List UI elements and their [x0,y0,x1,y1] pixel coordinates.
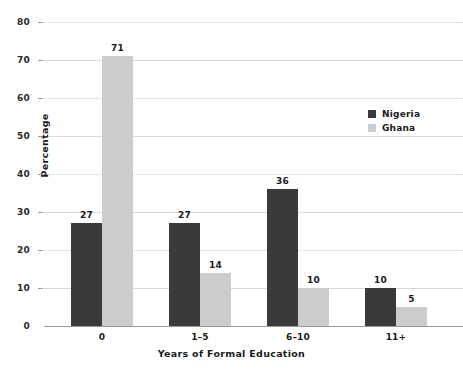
legend-item-nigeria: Nigeria [368,107,420,121]
bar-value-label: 27 [163,210,206,220]
y-axis-tick-mark [38,212,43,213]
bar-ghana-0 [102,56,133,326]
bar-ghana-1–5 [200,273,231,326]
x-axis-tick-label: 1–5 [149,332,251,342]
x-axis-tick-label: 11+ [345,332,447,342]
y-axis-tick-label: 30 [0,207,30,217]
bar-value-label: 5 [390,294,433,304]
y-axis-tick-label: 70 [0,55,30,65]
y-axis-tick-label: 50 [0,131,30,141]
y-axis-title: Percentage [39,96,50,196]
y-axis-tick-label: 20 [0,245,30,255]
y-axis-tick-label: 60 [0,93,30,103]
y-axis-tick-mark [38,98,43,99]
bar-chart: Percentage Years of Formal Education Nig… [0,0,463,377]
bar-value-label: 27 [65,210,108,220]
y-axis-tick-mark [38,288,43,289]
bar-value-label: 14 [194,260,237,270]
y-axis-tick-label: 10 [0,283,30,293]
bar-value-label: 71 [96,43,139,53]
y-axis-tick-label: 80 [0,17,30,27]
bar-value-label: 10 [292,275,335,285]
legend-label: Ghana [382,123,415,133]
bar-nigeria-1–5 [169,223,200,326]
y-axis-tick-mark [38,136,43,137]
chart-legend: NigeriaGhana [368,107,420,135]
y-axis-tick-label: 40 [0,169,30,179]
y-axis-tick-mark [38,250,43,251]
bar-value-label: 36 [261,176,304,186]
bar-ghana-6–10 [298,288,329,326]
bar-ghana-11+ [396,307,427,326]
x-axis-line [44,326,463,327]
y-axis-tick-mark [38,22,43,23]
legend-label: Nigeria [382,109,420,119]
x-axis-tick-label: 0 [51,332,153,342]
y-axis-tick-label: 0 [0,321,30,331]
bar-nigeria-0 [71,223,102,326]
legend-swatch-icon [368,124,376,132]
legend-item-ghana: Ghana [368,121,420,135]
x-axis-tick-label: 6–10 [247,332,349,342]
bar-nigeria-6–10 [267,189,298,326]
y-axis-tick-mark [38,60,43,61]
legend-swatch-icon [368,110,376,118]
x-axis-title: Years of Formal Education [0,348,463,359]
gridline [44,22,463,23]
y-axis-tick-mark [38,174,43,175]
bar-value-label: 10 [359,275,402,285]
